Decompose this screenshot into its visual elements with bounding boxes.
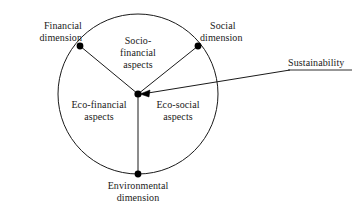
label-socio-financial-aspects-line3: aspects: [98, 59, 178, 71]
label-eco-financial-aspects: Eco-financial aspects: [61, 99, 137, 123]
label-socio-financial-aspects-line1: Socio-: [98, 35, 178, 47]
node-environmental-dimension[interactable]: [135, 171, 142, 178]
label-social-dimension-line2: dimension: [200, 32, 280, 44]
label-socio-financial-aspects-line2: financial: [98, 47, 178, 59]
label-social-dimension-line1: Social: [200, 20, 280, 32]
label-environmental-dimension-line1: Environmental: [78, 180, 198, 192]
label-financial-dimension-line2: dimension: [6, 32, 82, 44]
label-financial-dimension-line1: Financial: [6, 20, 82, 32]
label-financial-dimension: Financial dimension: [6, 20, 82, 44]
label-eco-financial-aspects-line2: aspects: [61, 111, 137, 123]
node-center-sustainability[interactable]: [134, 90, 141, 97]
label-environmental-dimension: Environmental dimension: [78, 180, 198, 204]
label-social-dimension: Social dimension: [200, 20, 280, 44]
label-sustainability: Sustainability: [288, 57, 358, 69]
label-eco-financial-aspects-line1: Eco-financial: [61, 99, 137, 111]
label-sustainability-text: Sustainability: [288, 57, 358, 69]
label-socio-financial-aspects: Socio- financial aspects: [98, 35, 178, 71]
label-environmental-dimension-line2: dimension: [78, 192, 198, 204]
sustainability-leader-line: [148, 70, 290, 93]
sustainability-dimensions-diagram: Financial dimension Social dimension Env…: [0, 0, 358, 217]
label-eco-social-aspects: Eco-social aspects: [142, 99, 214, 123]
label-eco-social-aspects-line2: aspects: [142, 111, 214, 123]
label-eco-social-aspects-line1: Eco-social: [142, 99, 214, 111]
